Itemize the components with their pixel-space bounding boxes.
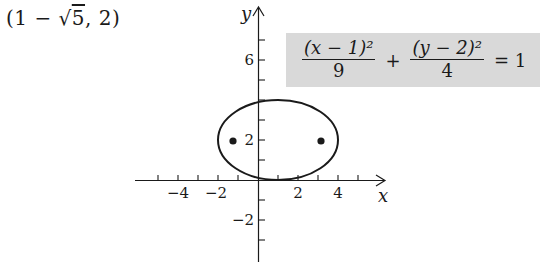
y-tick-label: 2 <box>244 131 254 149</box>
y-ticks <box>259 40 266 240</box>
focus-point-right <box>317 137 324 144</box>
focus-point-left <box>229 137 236 144</box>
x-axis-label: x <box>378 185 388 206</box>
x-tick-label: −4 <box>167 184 189 202</box>
y-tick-label: −2 <box>232 211 254 229</box>
x-tick-label: 2 <box>293 184 303 202</box>
x-tick-label: 4 <box>333 184 343 202</box>
y-axis-label: y <box>240 3 252 24</box>
x-tick-label: −2 <box>205 184 227 202</box>
ellipse-graph: −4 −2 2 4 −2 2 6 x y <box>0 0 540 279</box>
y-tick-label: 6 <box>244 51 254 69</box>
